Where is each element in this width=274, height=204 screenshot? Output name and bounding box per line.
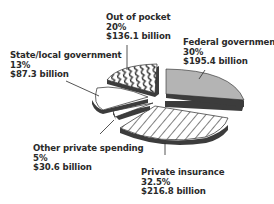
label-amount: $87.3 billion xyxy=(10,70,122,80)
label-other-private-spending: Other private spending 5% $30.6 billion xyxy=(33,144,144,173)
label-name: Other private spending xyxy=(33,144,144,154)
label-private-insurance: Private insurance 32.5% $216.8 billion xyxy=(141,168,225,197)
label-federal-government: Federal government 30% $195.4 billion xyxy=(183,38,274,67)
leader-other-private xyxy=(100,120,114,134)
label-amount: $216.8 billion xyxy=(141,187,225,197)
label-amount: $30.6 billion xyxy=(33,163,144,173)
label-state-local-government: State/local government 13% $87.3 billion xyxy=(10,51,122,80)
label-out-of-pocket: Out of pocket 20% $136.1 billion xyxy=(106,13,171,42)
slice-federal-government xyxy=(165,69,244,111)
label-amount: $195.4 billion xyxy=(183,57,274,67)
label-amount: $136.1 billion xyxy=(106,32,171,42)
leader-state-local xyxy=(66,81,99,96)
